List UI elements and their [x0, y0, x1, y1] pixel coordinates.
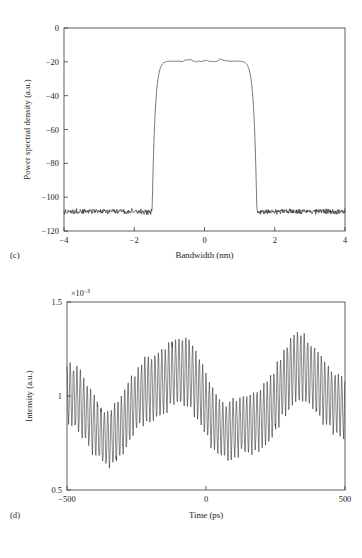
y-tick-label: −20 — [46, 58, 59, 67]
y-tick-label: 1 — [58, 392, 62, 401]
x-tick-label: −4 — [60, 236, 70, 245]
y-axis-title: Intensity (a.u.) — [24, 370, 34, 422]
plot-frame — [67, 302, 345, 490]
y-tick-label: −60 — [46, 126, 59, 135]
y-tick-label: −40 — [46, 92, 59, 101]
y-axis-title: Power spectral density (a.u.) — [22, 79, 32, 179]
panel-label: (d) — [10, 510, 20, 520]
plot-frame — [64, 28, 345, 231]
y-tick-label: −100 — [42, 193, 59, 202]
figure-panel-c: −120−100−80−60−40−200−4−2024Bandwidth (n… — [0, 0, 362, 278]
x-tick-label: 500 — [339, 495, 352, 504]
y-tick-label: 0 — [55, 24, 59, 33]
panel-label: (c) — [10, 250, 20, 260]
x-tick-label: 2 — [273, 236, 277, 245]
x-tick-label: 4 — [343, 236, 348, 245]
y-tick-label: 1.5 — [52, 298, 62, 307]
x-axis-title: Bandwidth (nm) — [176, 250, 234, 260]
spectrum-chart: −120−100−80−60−40−200−4−2024Bandwidth (n… — [0, 0, 362, 278]
y-tick-label: −80 — [46, 159, 59, 168]
y-tick-label: −120 — [42, 227, 59, 236]
spectrum-trace — [64, 59, 345, 214]
figure-panel-d: 0.511.5−5000500Time (ps)Intensity (a.u.)… — [0, 278, 362, 558]
intensity-chart: 0.511.5−5000500Time (ps)Intensity (a.u.)… — [0, 278, 362, 558]
y-exponent-label: ×10−3 — [71, 288, 90, 298]
intensity-trace — [67, 332, 345, 468]
x-tick-label: −2 — [130, 236, 139, 245]
x-tick-label: −500 — [58, 495, 75, 504]
x-tick-label: 0 — [204, 495, 208, 504]
x-axis-title: Time (ps) — [189, 510, 223, 520]
x-tick-label: 0 — [202, 236, 206, 245]
y-tick-label: 0.5 — [52, 486, 62, 495]
